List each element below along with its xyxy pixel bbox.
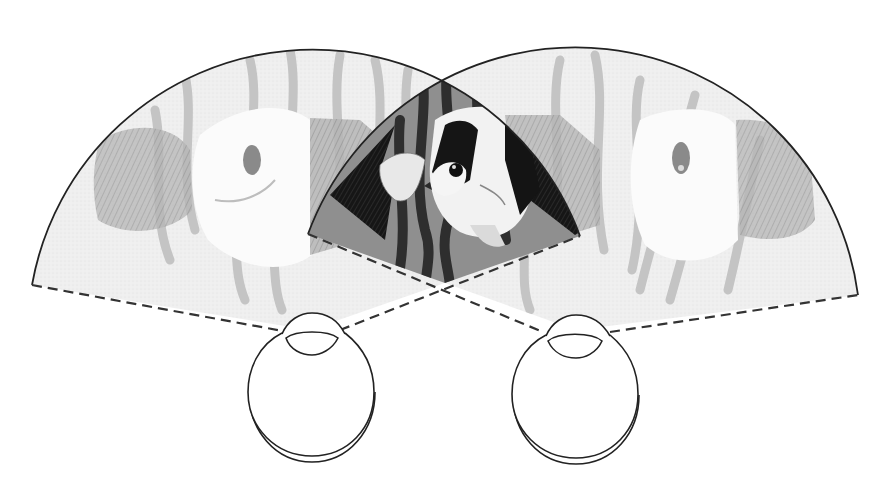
- left-eyeball: [248, 333, 374, 456]
- fish-eye: [449, 163, 463, 177]
- binocular-vision-diagram: [0, 0, 874, 491]
- left-eye: [248, 313, 375, 462]
- right-eye: [512, 315, 639, 464]
- right-eyeball: [512, 335, 638, 458]
